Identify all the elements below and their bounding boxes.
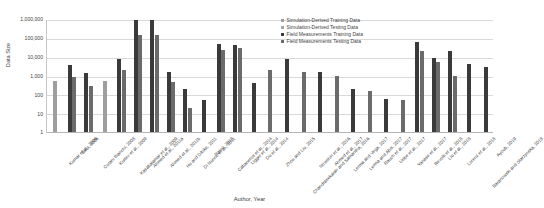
y-axis-tick-label: 1,000 [0, 74, 43, 79]
bar [117, 59, 121, 133]
legend-label: Field Measurements Training Data [287, 32, 363, 38]
bar [448, 51, 452, 132]
bar [285, 59, 289, 133]
bar [318, 72, 322, 132]
bar [467, 64, 471, 132]
legend-item[interactable]: Simulation-Derived Testing Data [281, 25, 363, 31]
bar-group [196, 20, 213, 132]
legend-item[interactable]: Simulation-Derived Training Data [281, 18, 363, 24]
bar [138, 35, 142, 132]
bar [84, 73, 88, 132]
bar [252, 83, 256, 132]
bar-group [163, 20, 180, 132]
legend-label: Simulation-Derived Training Data [287, 18, 360, 24]
bar [155, 35, 159, 132]
bar-group [444, 20, 461, 132]
bar [302, 72, 306, 132]
x-axis-tick-label: Zhou and Liu, 2015 [284, 136, 316, 168]
bar [103, 81, 107, 132]
bar [167, 72, 171, 132]
bar [202, 100, 206, 132]
legend-label: Field Measurements Testing Data [287, 39, 361, 45]
bar-group [97, 20, 114, 132]
y-axis-tick-label: 100 [0, 93, 43, 98]
y-axis-tick-label: 1,000,000 [0, 17, 43, 22]
x-axis-tick-label: Ayoub, 2019 [495, 136, 517, 158]
x-axis-tick-label: Ahmed et al., 2011a [152, 136, 184, 168]
bar [72, 77, 76, 132]
y-axis-tick-labels: 1101001,00010,000100,0001,000,000 [0, 20, 43, 133]
bar [420, 51, 424, 132]
bar-group [246, 20, 263, 132]
legend-swatch-icon [281, 26, 284, 29]
bar [233, 45, 237, 132]
bar-group [80, 20, 97, 132]
bar [351, 89, 355, 132]
bar [221, 50, 225, 132]
bar-group [411, 20, 428, 132]
bar [188, 108, 192, 133]
bar [401, 100, 405, 132]
chart-legend: Simulation-Derived Training DataSimulati… [281, 18, 363, 45]
bar-group [64, 20, 81, 132]
bar-group [229, 20, 246, 132]
bar [68, 65, 72, 132]
bar-group [146, 20, 163, 132]
bar [484, 67, 488, 132]
bar [89, 86, 93, 132]
y-axis-tick-label: 10,000 [0, 55, 43, 60]
bar [432, 58, 436, 132]
bar-group [113, 20, 130, 132]
bar [150, 20, 154, 132]
bar-group [213, 20, 230, 132]
bar-group [130, 20, 147, 132]
legend-label: Simulation-Derived Testing Data [287, 25, 358, 31]
bar-group [47, 20, 64, 132]
bar [53, 81, 57, 132]
bar-group [378, 20, 395, 132]
bar-group [395, 20, 412, 132]
bar [183, 89, 187, 132]
bar-group [362, 20, 379, 132]
bar [268, 70, 272, 132]
bar [368, 91, 372, 132]
plot-area [46, 20, 493, 133]
y-axis-tick-label: 1 [0, 130, 43, 135]
bar [335, 76, 339, 133]
legend-item[interactable]: Field Measurements Training Data [281, 32, 363, 38]
x-axis-title: Author, Year [0, 196, 499, 203]
legend-swatch-icon [281, 40, 284, 43]
x-axis-tick-label: Baranowski and Starzynska, 2018 [492, 136, 544, 189]
legend-swatch-icon [281, 19, 284, 22]
legend-item[interactable]: Field Measurements Testing Data [281, 39, 363, 45]
bar [171, 82, 175, 132]
bar-group [262, 20, 279, 132]
bar [217, 44, 221, 132]
bar [415, 42, 419, 132]
bar-group [179, 20, 196, 132]
y-axis-tick-label: 100,000 [0, 36, 43, 41]
bar-group [461, 20, 478, 132]
bar [238, 48, 242, 132]
bar-group [428, 20, 445, 132]
bar [436, 62, 440, 132]
y-axis-tick-label: 10 [0, 112, 43, 117]
bar [453, 76, 457, 132]
bar [134, 20, 138, 132]
bar [122, 70, 126, 132]
bar-group [477, 20, 494, 132]
legend-swatch-icon [281, 33, 284, 36]
bar [384, 99, 388, 132]
